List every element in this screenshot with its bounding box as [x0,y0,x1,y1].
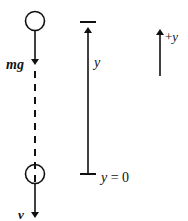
falling-ball-diagram: mg v y y = 0 +y [0,0,188,221]
top-ball [26,12,45,31]
gravity-force-label: mg [6,57,24,72]
height-label: y [92,55,101,70]
positive-sign: + [165,29,172,44]
velocity-label: v [18,207,24,221]
ground-level-eq: = 0 [107,170,129,185]
positive-direction-label: +y [165,29,178,44]
ball-circle-icon [26,12,45,31]
ground-level-label: y = 0 [99,170,129,185]
positive-var: y [170,29,178,44]
